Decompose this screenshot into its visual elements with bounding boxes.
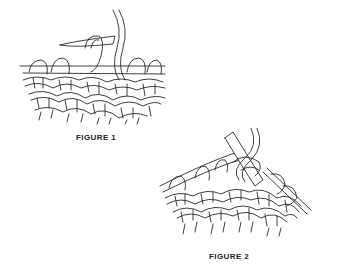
figure-1-caption: FIGURE 1	[76, 133, 116, 142]
left-needle-bottom-edge	[23, 73, 165, 74]
figure-2-caption: FIGURE 2	[209, 252, 249, 261]
figure-2-illustration	[155, 128, 315, 243]
figure-1-illustration	[15, 8, 175, 126]
